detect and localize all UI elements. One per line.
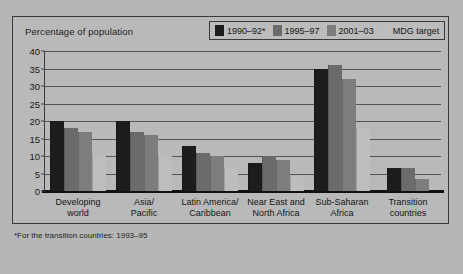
bar-group: Latin America/Caribbean — [177, 51, 243, 191]
bar — [290, 177, 304, 191]
legend-swatch-icon — [215, 25, 224, 36]
x-axis-category-label: Asia/Pacific — [131, 197, 158, 218]
x-axis-category-line: Caribbean — [181, 208, 238, 219]
bar — [116, 121, 130, 191]
legend-label: MDG target — [393, 26, 440, 36]
bar — [248, 163, 262, 191]
bar — [224, 168, 238, 191]
bar — [130, 132, 144, 192]
x-axis-category-line: Developing — [55, 197, 100, 208]
x-axis-category-line: countries — [388, 208, 427, 219]
bar-group: Developingworld — [45, 51, 111, 191]
x-axis-category-line: Asia/ — [131, 197, 158, 208]
bar — [50, 121, 64, 191]
bar-group: Near East andNorth Africa — [243, 51, 309, 191]
bar — [158, 156, 172, 191]
bar — [182, 146, 196, 192]
y-axis-tick-label: 30 — [29, 81, 45, 92]
bar — [196, 153, 210, 192]
bar-group: Transitioncountries — [375, 51, 441, 191]
plot-area: 0510152025303540 DevelopingworldAsia/Pac… — [45, 51, 441, 191]
bar — [342, 79, 356, 191]
legend-label: 1990–92* — [227, 26, 266, 36]
legend-swatch-icon — [327, 25, 336, 36]
y-axis-tick-label: 15 — [29, 133, 45, 144]
x-axis-category-label: Developingworld — [55, 197, 100, 218]
chart-legend: 1990–92*1995–972001–03MDG target — [209, 21, 445, 40]
y-axis-tick-label: 20 — [29, 116, 45, 127]
x-axis-category-label: Near East andNorth Africa — [247, 197, 305, 218]
x-axis-category-label: Transitioncountries — [388, 197, 427, 218]
legend-swatch-icon — [273, 25, 282, 36]
legend-item-0: 1990–92* — [215, 25, 266, 36]
bar-group: Sub-SaharanAfrica — [309, 51, 375, 191]
bar — [262, 156, 276, 191]
bar — [276, 160, 290, 192]
legend-item-3: MDG target — [381, 25, 440, 36]
legend-item-1: 1995–97 — [273, 25, 320, 36]
y-axis-tick-label: 25 — [29, 98, 45, 109]
legend-label: 2001–03 — [339, 26, 374, 36]
bar — [328, 65, 342, 191]
bar — [64, 128, 78, 191]
bar-group: Asia/Pacific — [111, 51, 177, 191]
bar — [210, 156, 224, 191]
x-axis-category-line: Sub-Saharan — [315, 197, 368, 208]
bar — [415, 179, 429, 191]
x-axis-category-label: Sub-SaharanAfrica — [315, 197, 368, 218]
x-axis-category-label: Latin America/Caribbean — [181, 197, 238, 218]
bar — [356, 128, 370, 191]
y-axis-tick-label: 5 — [35, 168, 45, 179]
bar — [78, 132, 92, 192]
x-axis-category-line: Near East and — [247, 197, 305, 208]
bar — [92, 156, 106, 191]
bar — [387, 168, 401, 191]
y-axis-tick-label: 10 — [29, 151, 45, 162]
x-axis-category-line: Transition — [388, 197, 427, 208]
x-axis-category-line: Africa — [315, 208, 368, 219]
legend-row: Percentage of population 1990–92*1995–97… — [13, 17, 448, 47]
legend-label: 1995–97 — [285, 26, 320, 36]
x-axis-category-line: Latin America/ — [181, 197, 238, 208]
bar — [314, 69, 328, 192]
chart-panel: Percentage of population 1990–92*1995–97… — [12, 16, 449, 224]
bar — [401, 168, 415, 191]
legend-item-2: 2001–03 — [327, 25, 374, 36]
y-axis-tick-label: 35 — [29, 63, 45, 74]
x-axis-category-line: Pacific — [131, 208, 158, 219]
gridline — [45, 191, 441, 192]
bar-groups: DevelopingworldAsia/PacificLatin America… — [45, 51, 441, 191]
y-axis-tick-label: 0 — [35, 186, 45, 197]
x-axis-category-line: world — [55, 208, 100, 219]
axis-title-label: Percentage of population — [25, 26, 133, 37]
chart-footnote: *For the transition countries: 1993–95 — [14, 231, 147, 240]
x-axis-category-line: North Africa — [247, 208, 305, 219]
y-axis-tick-label: 40 — [29, 46, 45, 57]
bar — [144, 135, 158, 191]
legend-swatch-icon — [381, 25, 390, 36]
